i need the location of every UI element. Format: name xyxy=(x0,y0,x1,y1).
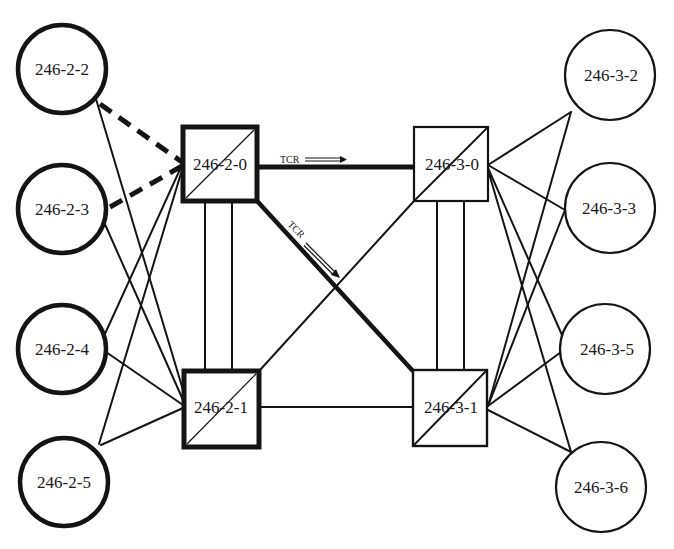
svg-text:246-2-1: 246-2-1 xyxy=(194,398,248,417)
node-246-2-1: 246-2-1 xyxy=(184,371,259,447)
network-diagram: TCR TCR 246-2-2 246-2-3 246-2-4 246-2-5 … xyxy=(0,0,674,549)
node-246-2-2: 246-2-2 xyxy=(18,25,106,113)
node-246-3-0: 246-3-0 xyxy=(414,127,488,201)
svg-text:246-3-6: 246-3-6 xyxy=(574,478,628,497)
tcr-horizontal-label: TCR xyxy=(280,154,300,165)
svg-text:246-3-3: 246-3-3 xyxy=(582,199,636,218)
node-246-3-1: 246-3-1 xyxy=(413,370,487,446)
node-246-2-3: 246-2-3 xyxy=(18,165,106,253)
svg-text:246-2-0: 246-2-0 xyxy=(193,155,247,174)
svg-text:246-3-0: 246-3-0 xyxy=(425,155,479,174)
svg-text:246-2-4: 246-2-4 xyxy=(35,340,89,359)
svg-text:246-2-3: 246-2-3 xyxy=(35,200,89,219)
node-246-2-0: 246-2-0 xyxy=(183,127,257,201)
svg-text:246-3-1: 246-3-1 xyxy=(424,398,478,417)
svg-text:246-2-2: 246-2-2 xyxy=(35,60,89,79)
node-246-2-5: 246-2-5 xyxy=(20,438,108,526)
node-246-3-6: 246-3-6 xyxy=(556,442,646,532)
node-246-3-5: 246-3-5 xyxy=(560,304,650,394)
svg-text:246-2-5: 246-2-5 xyxy=(37,473,91,492)
svg-text:246-3-5: 246-3-5 xyxy=(580,340,634,359)
node-246-3-3: 246-3-3 xyxy=(565,163,655,253)
svg-text:246-3-2: 246-3-2 xyxy=(584,66,638,85)
node-246-2-4: 246-2-4 xyxy=(18,305,106,393)
node-246-3-2: 246-3-2 xyxy=(565,30,655,120)
